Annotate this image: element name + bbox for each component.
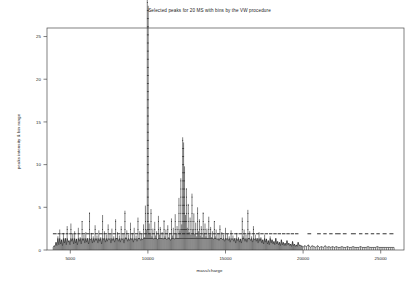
y-tick-label: 5 [39,205,42,210]
x-tick-label: 20000 [297,256,310,261]
y-tick-label: 0 [39,248,42,253]
y-tick-label: 20 [36,77,41,82]
x-axis-ticks: 500010000150002000025000 [65,250,387,261]
x-tick-label: 25000 [375,256,388,261]
peak-intensity-spikes [53,0,394,250]
chart-container: Selected peaks for 20 MS with bins by th… [0,0,419,286]
y-tick-label: 15 [36,120,41,125]
y-tick-label: 25 [36,34,41,39]
y-tick-label: 10 [36,162,41,167]
plot-canvas: 0510152025 500010000150002000025000 [0,0,419,286]
y-axis-ticks: 0510152025 [36,34,47,252]
x-tick-label: 15000 [219,256,232,261]
plot-frame [47,28,404,250]
x-tick-label: 5000 [65,256,75,261]
x-tick-label: 10000 [142,256,155,261]
